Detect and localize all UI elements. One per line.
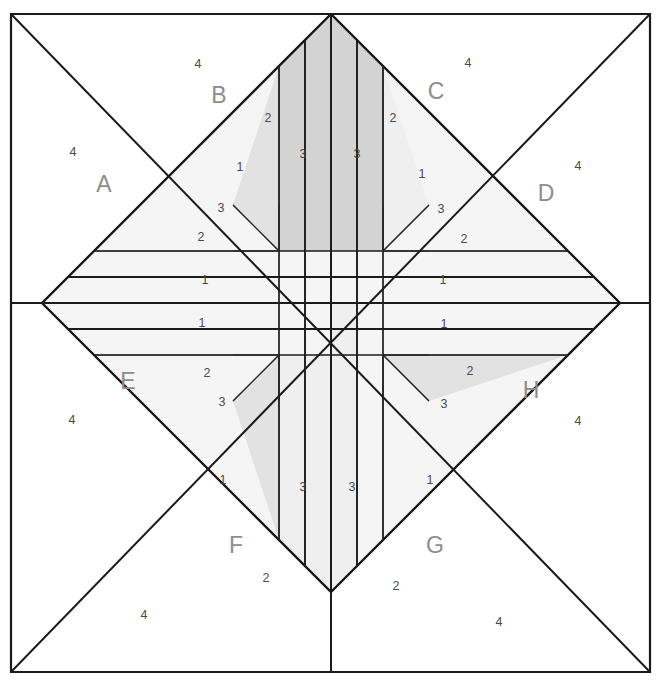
section-label-F: F: [229, 532, 243, 558]
corner-piece-label-D: 4: [575, 159, 582, 173]
corner-piece-label-A: 4: [70, 145, 77, 159]
piece-label-H-2: 2: [467, 364, 474, 378]
piece-label-H-1: 1: [441, 317, 448, 331]
corner-piece-label-F: 4: [141, 608, 148, 622]
piece-label-F-2: 2: [263, 571, 270, 585]
piece-label-C-3: 3: [354, 147, 361, 161]
piece-label-B-2: 2: [265, 111, 272, 125]
piece-label-C-1: 1: [419, 167, 426, 181]
piece-label-B-3: 3: [300, 147, 307, 161]
piece-label-B-1: 1: [237, 160, 244, 174]
corner-piece-label-C: 4: [465, 56, 472, 70]
piece-label-E-2: 2: [204, 366, 211, 380]
piece-label-H-3: 3: [441, 397, 448, 411]
piece-label-A-1: 1: [202, 273, 209, 287]
section-label-B: B: [211, 82, 226, 108]
piece-label-F-1: 1: [220, 473, 227, 487]
piece-label-D-2: 2: [461, 232, 468, 246]
section-label-G: G: [426, 532, 444, 558]
diagram-canvas: 123123321321123132231321A4B4C4D4E4F4G4H4: [0, 0, 656, 685]
piece-label-E-1: 1: [199, 316, 206, 330]
corner-piece-label-H: 4: [575, 414, 582, 428]
piece-label-G-1: 1: [427, 473, 434, 487]
section-label-A: A: [96, 171, 112, 197]
corner-piece-label-E: 4: [69, 413, 76, 427]
section-label-E: E: [120, 368, 135, 394]
section-label-H: H: [523, 377, 540, 403]
piece-label-E-3: 3: [219, 395, 226, 409]
patch-3-E: [42, 303, 331, 329]
piece-label-A-3: 3: [218, 201, 225, 215]
piece-label-G-2: 2: [393, 579, 400, 593]
section-label-C: C: [428, 78, 445, 104]
piece-label-C-2: 2: [390, 111, 397, 125]
section-label-D: D: [538, 180, 555, 206]
corner-piece-label-B: 4: [195, 57, 202, 71]
piece-label-F-3: 3: [300, 480, 307, 494]
piece-label-D-1: 1: [440, 273, 447, 287]
piece-label-G-3: 3: [349, 480, 356, 494]
piece-label-A-2: 2: [198, 230, 205, 244]
quilt-block-diagram: 123123321321123132231321A4B4C4D4E4F4G4H4: [0, 0, 656, 685]
corner-piece-label-G: 4: [496, 615, 503, 629]
piece-label-D-3: 3: [438, 202, 445, 216]
